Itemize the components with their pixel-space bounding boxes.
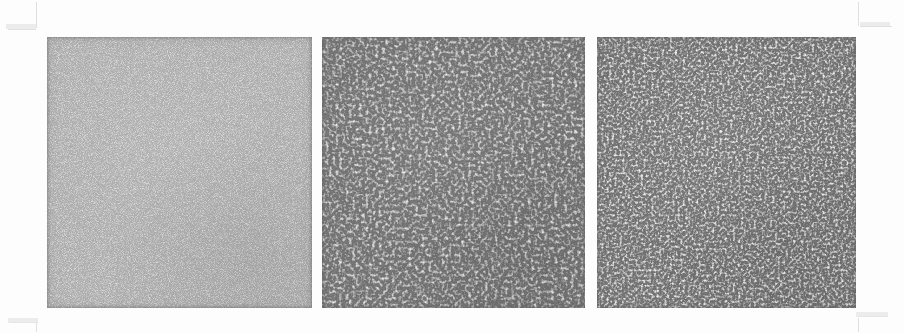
- crop-mark-top-right-horizontal: [860, 26, 892, 27]
- micrograph-panel-3: [597, 37, 856, 308]
- crop-mark-top-left-horizontal: [8, 29, 36, 30]
- scan-smudge-0: [6, 24, 36, 29]
- panel-3-texture: [597, 37, 856, 308]
- scan-smudge-2: [8, 318, 38, 323]
- micrograph-panel-2: [322, 37, 585, 308]
- scan-smudge-1: [860, 22, 890, 26]
- crop-mark-bottom-left-vertical: [36, 322, 37, 332]
- figure-root: [0, 0, 904, 333]
- panel-1-texture: [47, 37, 312, 308]
- scan-smudge-3: [856, 312, 888, 317]
- micrograph-panel-1: [47, 37, 312, 308]
- crop-mark-bottom-right-vertical: [858, 318, 859, 332]
- crop-mark-top-left-vertical: [36, 2, 37, 28]
- crop-mark-top-right-vertical: [858, 2, 859, 26]
- panel-2-texture: [322, 37, 585, 308]
